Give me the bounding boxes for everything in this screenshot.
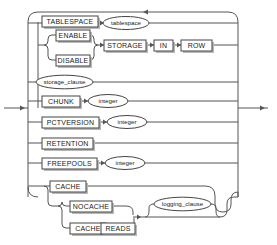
node-chunk-label: CHUNK	[48, 98, 74, 105]
branch-retention: RETENTION	[42, 138, 95, 151]
node-chunk-integer-label: integer	[99, 97, 118, 104]
node-row-label: ROW	[188, 42, 206, 49]
node-pctversion-integer-label: integer	[118, 118, 137, 125]
node-tablespace-keyword-label: TABLESPACE	[47, 18, 94, 25]
node-cache-reads-reads-label: READS	[105, 225, 130, 232]
railroad-diagram: TABLESPACE tablespace ENABLE DISABLE STO…	[0, 0, 277, 245]
diagram-canvas: TABLESPACE tablespace ENABLE DISABLE STO…	[0, 0, 277, 245]
node-freepools-label: FREEPOOLS	[47, 160, 92, 167]
node-nocache-label: NOCACHE	[73, 203, 110, 210]
node-storage-label: STORAGE	[107, 42, 143, 49]
node-enable-label: ENABLE	[59, 32, 88, 39]
node-tablespace-value-label: tablespace	[111, 19, 141, 26]
branch-storage-clause: storage_clause	[36, 75, 93, 89]
branch-storage-in-row: ENABLE DISABLE STORAGE IN ROW	[56, 30, 214, 68]
node-retention-label: RETENTION	[46, 140, 88, 147]
node-storage-clause-label: storage_clause	[44, 78, 87, 85]
node-in-label: IN	[160, 42, 167, 49]
branch-pctversion: PCTVERSION integer	[42, 116, 147, 131]
branch-tablespace: TABLESPACE tablespace	[42, 16, 149, 30]
node-disable-label: DISABLE	[58, 57, 89, 64]
node-freepools-integer-label: integer	[116, 159, 135, 166]
branch-freepools: FREEPOOLS integer	[42, 157, 145, 172]
node-cache-label: CACHE	[55, 183, 81, 190]
node-pctversion-label: PCTVERSION	[47, 119, 95, 126]
branch-cache-group: CACHE NOCACHE CACHE READS logging_clause	[50, 181, 211, 236]
node-logging-clause-label: logging_clause	[162, 200, 204, 207]
node-cache-reads-cache-label: CACHE	[75, 225, 101, 232]
